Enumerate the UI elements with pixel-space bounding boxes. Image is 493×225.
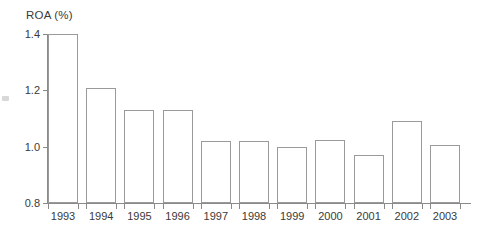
- x-tick-mark: [345, 203, 346, 209]
- bar-1995: [124, 110, 154, 203]
- x-tick-mark: [269, 203, 270, 209]
- x-tick-label-1996: 1996: [165, 210, 189, 222]
- x-tick-mark: [193, 203, 194, 209]
- x-tick-mark: [384, 203, 385, 209]
- x-tick-mark: [422, 203, 423, 209]
- x-tick-label-1993: 1993: [51, 210, 75, 222]
- x-tick-mark: [277, 203, 278, 209]
- x-tick-mark: [307, 203, 308, 209]
- x-tick-mark: [86, 203, 87, 209]
- x-tick-mark: [392, 203, 393, 209]
- x-axis-line: [47, 203, 471, 204]
- plot-area: 0.81.01.21.4 199319941995199619971998199…: [0, 0, 493, 225]
- x-tick-label-2003: 2003: [433, 210, 457, 222]
- bar-1997: [201, 141, 231, 203]
- y-tick-label: 1.2: [4, 84, 40, 96]
- x-tick-label-1998: 1998: [242, 210, 266, 222]
- x-tick-label-2000: 2000: [318, 210, 342, 222]
- x-tick-label-2001: 2001: [356, 210, 380, 222]
- bar-1994: [86, 88, 116, 203]
- x-tick-mark: [239, 203, 240, 209]
- chart-container: ROA (%) 0.81.01.21.4 1993199419951996199…: [0, 0, 493, 225]
- x-tick-mark: [315, 203, 316, 209]
- x-tick-label-1994: 1994: [89, 210, 113, 222]
- y-tick-label: 1.4: [4, 28, 40, 40]
- bar-2001: [354, 155, 384, 203]
- y-tick-label: 0.8: [4, 197, 40, 209]
- x-tick-mark: [163, 203, 164, 209]
- x-tick-mark: [116, 203, 117, 209]
- bar-2002: [392, 121, 422, 203]
- bar-2000: [315, 140, 345, 203]
- bar-2003: [430, 145, 460, 203]
- y-tick-label: 1.0: [4, 141, 40, 153]
- x-tick-label-2002: 2002: [395, 210, 419, 222]
- x-tick-mark: [231, 203, 232, 209]
- x-tick-mark: [201, 203, 202, 209]
- x-tick-label-1997: 1997: [204, 210, 228, 222]
- x-tick-mark: [124, 203, 125, 209]
- x-tick-mark: [430, 203, 431, 209]
- bar-1999: [277, 147, 307, 203]
- x-tick-mark: [460, 203, 461, 209]
- x-tick-mark: [48, 203, 49, 209]
- bar-1993: [48, 34, 78, 203]
- x-tick-mark: [78, 203, 79, 209]
- x-tick-label-1999: 1999: [280, 210, 304, 222]
- bar-1996: [163, 110, 193, 203]
- bar-1998: [239, 141, 269, 203]
- x-tick-mark: [354, 203, 355, 209]
- x-tick-mark: [154, 203, 155, 209]
- x-tick-label-1995: 1995: [127, 210, 151, 222]
